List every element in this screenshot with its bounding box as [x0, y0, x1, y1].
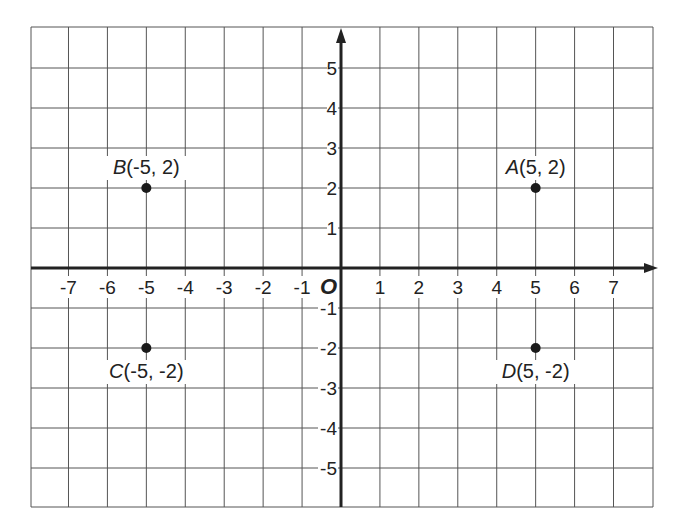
coordinate-plane: -7-6-5-4-3-2-1123456754321-1-2-3-4-5O A(…	[0, 0, 683, 530]
x-tick-label: 4	[491, 277, 502, 298]
x-axis-arrow-icon	[644, 263, 658, 273]
y-tick-label: 3	[326, 138, 337, 159]
points: A(5, 2)B(-5, 2)C(-5, -2)D(5, -2)	[100, 156, 576, 384]
axes	[31, 28, 658, 507]
point-name: D	[502, 360, 516, 382]
y-tick-label: 5	[326, 58, 337, 79]
x-tick-label: -7	[60, 277, 77, 298]
point-a	[531, 183, 541, 193]
y-tick-label: -1	[320, 298, 337, 319]
y-tick-label: 2	[326, 178, 337, 199]
x-tick-label: 6	[569, 277, 580, 298]
y-tick-label: -3	[320, 378, 337, 399]
y-tick-label: -5	[320, 458, 337, 479]
x-tick-label: -3	[216, 277, 233, 298]
y-tick-label: -4	[320, 418, 337, 439]
point-d	[531, 343, 541, 353]
y-tick-label: 1	[326, 218, 337, 239]
point-coords: (5, 2)	[519, 156, 566, 178]
point-label-c: C(-5, -2)	[109, 360, 183, 382]
point-label-a: A(5, 2)	[505, 156, 566, 178]
x-tick-label: -2	[255, 277, 272, 298]
point-name: C	[109, 360, 124, 382]
point-coords: (-5, -2)	[124, 360, 184, 382]
point-label-d: D(5, -2)	[502, 360, 570, 382]
y-axis-arrow-icon	[336, 28, 346, 43]
point-coords: (-5, 2)	[126, 156, 179, 178]
point-name: A	[505, 156, 519, 178]
point-coords: (5, -2)	[516, 360, 569, 382]
x-tick-label: 2	[414, 277, 425, 298]
origin-label: O	[320, 274, 337, 299]
x-tick-label: -1	[294, 277, 311, 298]
x-tick-label: 3	[453, 277, 464, 298]
point-b	[141, 183, 151, 193]
x-tick-label: -4	[177, 277, 194, 298]
x-tick-label: 1	[375, 277, 386, 298]
x-tick-label: -6	[99, 277, 116, 298]
x-tick-label: 7	[608, 277, 619, 298]
point-label-b: B(-5, 2)	[113, 156, 180, 178]
y-tick-label: 4	[326, 98, 337, 119]
y-tick-label: -2	[320, 338, 337, 359]
x-tick-label: 5	[530, 277, 541, 298]
coordinate-plane-svg: -7-6-5-4-3-2-1123456754321-1-2-3-4-5O A(…	[0, 0, 683, 530]
point-c	[141, 343, 151, 353]
x-tick-label: -5	[138, 277, 155, 298]
point-name: B	[113, 156, 126, 178]
